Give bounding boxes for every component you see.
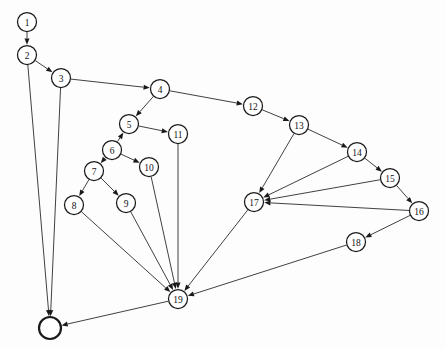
graph-node[interactable]: 14 bbox=[348, 143, 367, 162]
graph-node[interactable]: 8 bbox=[65, 196, 84, 215]
node-label: 10 bbox=[144, 163, 154, 173]
graph-edge bbox=[365, 215, 410, 237]
arrowhead-icon bbox=[184, 284, 190, 290]
graph-node[interactable]: 7 bbox=[85, 162, 104, 181]
arrowhead-icon bbox=[263, 193, 270, 198]
graph-node[interactable]: 15 bbox=[381, 169, 400, 188]
node-label: 19 bbox=[173, 295, 183, 305]
node-label: 5 bbox=[127, 120, 132, 130]
arrowhead-icon bbox=[46, 67, 53, 73]
node-label: 2 bbox=[25, 51, 30, 61]
terminal-node-circle[interactable] bbox=[39, 317, 61, 339]
graph-node[interactable] bbox=[39, 317, 61, 339]
graph-edge bbox=[259, 134, 294, 193]
graph-edge bbox=[25, 32, 30, 45]
arrowhead-icon bbox=[62, 322, 69, 327]
node-label: 4 bbox=[158, 85, 163, 95]
graph-edge bbox=[81, 212, 170, 292]
arrowhead-icon bbox=[143, 85, 149, 90]
graph-diagram-canvas: 12345678910111213141516171819 bbox=[0, 0, 445, 349]
graph-edge bbox=[48, 88, 60, 316]
graph-node[interactable]: 9 bbox=[117, 194, 136, 213]
graph-edge bbox=[71, 79, 150, 90]
graph-edge bbox=[28, 65, 51, 316]
graph-edge bbox=[117, 133, 123, 142]
node-label: 6 bbox=[110, 146, 115, 156]
graph-node[interactable]: 12 bbox=[244, 97, 263, 116]
graph-edge bbox=[262, 110, 289, 121]
node-label: 9 bbox=[124, 199, 129, 209]
node-label: 11 bbox=[173, 130, 182, 140]
graph-node[interactable]: 2 bbox=[18, 46, 37, 65]
graph-edge bbox=[121, 154, 140, 163]
graph-edge bbox=[263, 156, 348, 197]
arrowhead-icon bbox=[264, 200, 270, 205]
graph-node[interactable]: 11 bbox=[169, 125, 188, 144]
graph-node[interactable]: 10 bbox=[140, 158, 159, 177]
node-label: 12 bbox=[248, 102, 258, 112]
arrowhead-icon bbox=[188, 292, 195, 297]
graph-edge bbox=[101, 178, 119, 196]
nodes-layer: 12345678910111213141516171819 bbox=[18, 13, 429, 340]
graph-node[interactable]: 18 bbox=[347, 233, 366, 252]
graph-edge bbox=[62, 301, 169, 326]
graph-edge bbox=[131, 212, 173, 290]
graph-edge bbox=[397, 186, 413, 204]
graph-edge bbox=[188, 245, 347, 296]
graph-edge bbox=[79, 180, 89, 197]
node-label: 8 bbox=[72, 201, 77, 211]
node-label: 13 bbox=[294, 121, 304, 131]
node-label: 15 bbox=[385, 174, 395, 184]
graph-edge bbox=[264, 180, 380, 202]
node-label: 3 bbox=[59, 74, 64, 84]
arrowhead-icon bbox=[236, 101, 243, 106]
arrowhead-icon bbox=[259, 186, 264, 193]
arrowhead-icon bbox=[118, 133, 123, 140]
graph-edge bbox=[365, 158, 382, 171]
node-label: 14 bbox=[352, 148, 362, 158]
graph-edge bbox=[308, 129, 348, 147]
graph-svg: 12345678910111213141516171819 bbox=[0, 0, 445, 349]
node-label: 1 bbox=[25, 18, 30, 28]
arrowhead-icon bbox=[25, 39, 30, 45]
graph-edge bbox=[151, 177, 177, 289]
arrowhead-icon bbox=[161, 128, 168, 133]
arrowhead-icon bbox=[283, 116, 290, 121]
arrowhead-icon bbox=[375, 166, 381, 172]
graph-node[interactable]: 4 bbox=[151, 80, 170, 99]
graph-node[interactable]: 3 bbox=[52, 69, 71, 88]
node-label: 17 bbox=[249, 198, 259, 208]
arrowhead-icon bbox=[341, 143, 348, 148]
graph-node[interactable]: 5 bbox=[120, 115, 139, 134]
graph-node[interactable]: 1 bbox=[18, 13, 37, 32]
graph-node[interactable]: 6 bbox=[103, 141, 122, 160]
graph-edge bbox=[139, 126, 168, 133]
graph-edge bbox=[176, 144, 181, 289]
node-label: 7 bbox=[92, 167, 97, 177]
graph-node[interactable]: 16 bbox=[410, 202, 429, 221]
node-label: 16 bbox=[414, 207, 424, 217]
arrowhead-icon bbox=[365, 232, 372, 237]
graph-node[interactable]: 17 bbox=[245, 193, 264, 212]
graph-edge bbox=[184, 210, 247, 291]
graph-edge bbox=[136, 96, 154, 116]
edges-layer bbox=[25, 32, 413, 326]
node-label: 18 bbox=[351, 238, 361, 248]
arrowhead-icon bbox=[133, 158, 140, 163]
graph-edge bbox=[264, 200, 409, 210]
graph-edge bbox=[35, 61, 52, 73]
graph-node[interactable]: 19 bbox=[169, 290, 188, 309]
graph-edge bbox=[170, 91, 243, 106]
arrowhead-icon bbox=[79, 190, 84, 197]
graph-node[interactable]: 13 bbox=[290, 116, 309, 135]
